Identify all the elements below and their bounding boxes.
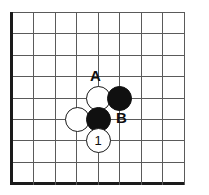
go-board-diagram: 1 AB [0, 0, 209, 195]
label-layer: AB [0, 0, 209, 195]
point-label-a: A [90, 68, 101, 83]
point-label-b: B [116, 110, 127, 125]
